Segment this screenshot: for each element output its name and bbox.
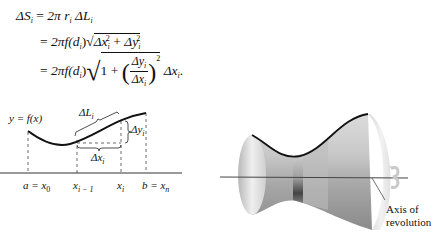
delta-x: Δx — [164, 63, 178, 78]
arc-label-text: ΔL — [79, 106, 92, 118]
delta-x: Δx — [132, 72, 144, 86]
surface-left-end — [238, 135, 266, 215]
subscript: 0 — [46, 185, 50, 194]
denominator: Δxi — [130, 72, 149, 88]
subscript: i — [92, 112, 94, 121]
surface-band — [293, 154, 303, 203]
left-paren: ( — [122, 59, 130, 85]
curve-label-text: y = f(x) — [9, 112, 42, 124]
two-pi-r: 2π r — [47, 8, 69, 23]
equation-line-3: = 2πf(di)√1 + (ΔyiΔxi)2 Δxi. — [40, 52, 183, 88]
subscript: i — [108, 42, 110, 51]
tick-label-xi: xi — [117, 180, 124, 194]
sqrt-radicand: Δxi2 + Δyi2 — [94, 33, 141, 51]
subscript: i — [31, 16, 33, 25]
equation-line-1: ΔSi = 2π ri ΔLi — [16, 9, 93, 25]
tick-label-a: a = x0 — [23, 180, 50, 194]
curve-label: y = f(x) — [9, 113, 42, 124]
equals-sign: = — [36, 8, 44, 23]
equals-sign: = — [40, 63, 48, 78]
tick-label-xi-minus-1: xi − 1 — [73, 180, 94, 194]
delta-s: ΔS — [16, 8, 31, 23]
axis-label: Axis of revolution — [386, 203, 431, 229]
subscript: i — [91, 16, 93, 25]
dx-label: Δxi — [91, 152, 105, 166]
sqrt-icon: √ — [86, 34, 93, 49]
period: . — [180, 63, 183, 78]
tick-text: b = x — [142, 179, 165, 191]
subscript: i — [122, 185, 124, 194]
plus-sign: + — [110, 34, 124, 49]
delta-y: Δy — [132, 54, 144, 68]
dy-label-text: Δy — [131, 123, 142, 135]
subscript: i — [144, 61, 146, 70]
sqrt-icon: √ — [86, 57, 100, 86]
numerator: Δyi — [130, 55, 149, 72]
subscript: i — [144, 79, 146, 88]
plus-sign: + — [107, 63, 121, 78]
equation-line-2: = 2πf(di)√Δxi2 + Δyi2 — [40, 33, 140, 51]
two-pi-f: 2πf(d — [51, 63, 80, 78]
superscript: 2 — [136, 34, 140, 43]
subscript: i − 1 — [78, 185, 94, 194]
equals-sign: = — [40, 34, 48, 49]
axis-label-line-2: revolution — [386, 216, 431, 229]
subscript: i — [142, 129, 144, 138]
subscript: n — [165, 185, 169, 194]
subscript: i — [138, 42, 140, 51]
sqrt-radicand: 1 + (ΔyiΔxi)2 — [101, 52, 161, 88]
tick-label-b: b = xn — [142, 180, 169, 194]
axis-label-line-1: Axis of — [386, 203, 431, 216]
dx-label-text: Δx — [91, 151, 102, 163]
superscript: 2 — [156, 54, 160, 63]
tick-text: a = x — [23, 179, 46, 191]
subscript: i — [102, 157, 104, 166]
dy-label: Δyi — [131, 124, 145, 138]
arc-label: ΔLi — [79, 107, 94, 121]
fraction: ΔyiΔxi — [130, 55, 149, 88]
two-pi-f: 2πf(d — [51, 34, 80, 49]
delta-l: ΔL — [72, 8, 91, 23]
